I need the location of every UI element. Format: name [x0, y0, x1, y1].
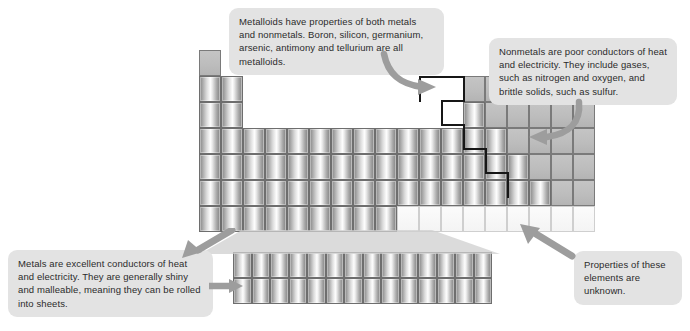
element-cell-metal [265, 154, 287, 180]
callout-metals-text: Metals are excellent conductors of heat … [18, 257, 203, 310]
element-cell-metal [463, 128, 485, 154]
element-cell-metal [375, 128, 397, 154]
metalloid-boundary-segment [485, 148, 487, 174]
element-cell-metal [199, 102, 221, 128]
element-cell-metal [265, 180, 287, 206]
metalloid-boundary-segment [507, 172, 509, 198]
callout-nonmetals: Nonmetals are poor conductors of heat an… [489, 38, 677, 105]
element-cell-metal [353, 128, 375, 154]
element-cell-metal [400, 278, 419, 304]
element-cell-metal [353, 180, 375, 206]
element-cell-nonmetal [573, 154, 595, 180]
metalloid-boundary-segment [463, 124, 465, 150]
element-cell-metal [485, 180, 507, 206]
element-cell-metal [199, 128, 221, 154]
arrow-metalloids [378, 50, 446, 98]
metalloid-boundary-segment [485, 172, 509, 174]
element-cell-metal [331, 180, 353, 206]
element-cell-metal [287, 128, 309, 154]
element-cell-metal [485, 154, 507, 180]
element-cell-metal [287, 154, 309, 180]
arrow-nonmetals [515, 98, 587, 148]
element-cell-metal [265, 128, 287, 154]
element-cell-nonmetal [463, 76, 485, 102]
element-cell-metal [243, 180, 265, 206]
element-cell-metal [344, 278, 363, 304]
element-cell-nonmetal [199, 50, 221, 76]
element-cell-metal [331, 128, 353, 154]
metalloid-boundary-segment [441, 100, 465, 102]
element-cell-metal [221, 76, 243, 102]
element-cell-metal [199, 180, 221, 206]
metalloid-boundary-segment [441, 100, 443, 126]
element-cell-metal [326, 278, 345, 304]
element-cell-metal [418, 278, 437, 304]
element-cell-metal [287, 180, 309, 206]
element-cell-metal [375, 154, 397, 180]
element-cell-metal [397, 154, 419, 180]
element-cell-metal [243, 128, 265, 154]
element-cell-metal [221, 180, 243, 206]
arrow-metals-up [176, 228, 238, 258]
element-cell-metal [309, 128, 331, 154]
element-cell-nonmetal [529, 154, 551, 180]
arrow-unknown [508, 222, 580, 262]
element-cell-nonmetal [551, 180, 573, 206]
element-cell-metal [381, 278, 400, 304]
arrow-metals-right [209, 278, 243, 294]
element-cell-metal [363, 278, 382, 304]
element-cell-metal [507, 154, 529, 180]
callout-metals: Metals are excellent conductors of heat … [8, 250, 213, 317]
element-cell-metal [307, 278, 326, 304]
element-cell-nonmetal [573, 180, 595, 206]
element-cell-metal [397, 128, 419, 154]
element-cell-nonmetal [485, 102, 507, 128]
periodic-table-diagram: Metalloids have properties of both metal… [0, 0, 690, 331]
element-cell-metal [529, 180, 551, 206]
element-cell-metal [309, 180, 331, 206]
element-cell-metal [243, 154, 265, 180]
callout-nonmetals-text: Nonmetals are poor conductors of heat an… [499, 45, 667, 98]
element-cell-metal [199, 154, 221, 180]
element-cell-metal [221, 128, 243, 154]
element-cell-metal [441, 128, 463, 154]
element-cell-metal [353, 154, 375, 180]
element-cell-metal [397, 180, 419, 206]
element-cell-metal [485, 128, 507, 154]
element-cell-metal [463, 102, 485, 128]
element-cell-metal [419, 180, 441, 206]
element-cell-metal [455, 278, 474, 304]
metalloid-boundary-segment [441, 124, 465, 126]
element-cell-metal [463, 180, 485, 206]
callout-unknown: Properties of these elements are unknown… [574, 251, 682, 305]
element-cell-metal [289, 278, 308, 304]
metalloid-boundary-segment [463, 148, 487, 150]
element-cell-metal [507, 180, 529, 206]
metalloid-boundary-segment [463, 76, 465, 102]
element-cell-metal [199, 76, 221, 102]
element-cell-metal [474, 278, 493, 304]
element-cell-metal [331, 154, 353, 180]
callout-unknown-text: Properties of these elements are unknown… [584, 258, 672, 298]
element-cell-metal [441, 154, 463, 180]
element-cell-metal [221, 102, 243, 128]
element-cell-metal [375, 180, 397, 206]
element-cell-metal [419, 128, 441, 154]
element-cell-metal [463, 154, 485, 180]
element-cell-metal [270, 278, 289, 304]
element-cell-metal [437, 278, 456, 304]
element-cell-metal [309, 154, 331, 180]
element-cell-metal [221, 154, 243, 180]
element-cell-metal [252, 278, 271, 304]
element-cell-metal [419, 154, 441, 180]
element-cell-metal [441, 180, 463, 206]
connector-shadow [200, 228, 500, 256]
element-cell-nonmetal [551, 154, 573, 180]
